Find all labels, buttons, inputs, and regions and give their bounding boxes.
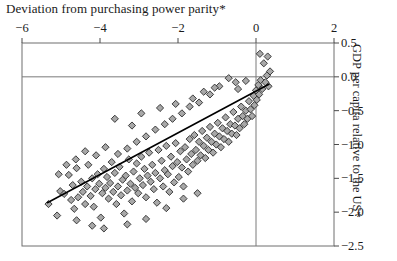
x-tick-label: −2 [171,22,184,35]
x-tick-label: 0 [253,22,259,35]
x-tick-label: 2 [331,22,337,35]
x-tick-label: −4 [93,22,106,35]
scatter-plot-canvas [0,0,397,261]
x-tick-label: −6 [15,22,28,35]
chart-figure: Deviation from purchasing power parity* … [0,0,397,261]
y-axis-title: GDP per capita relative to the US* [348,44,366,244]
